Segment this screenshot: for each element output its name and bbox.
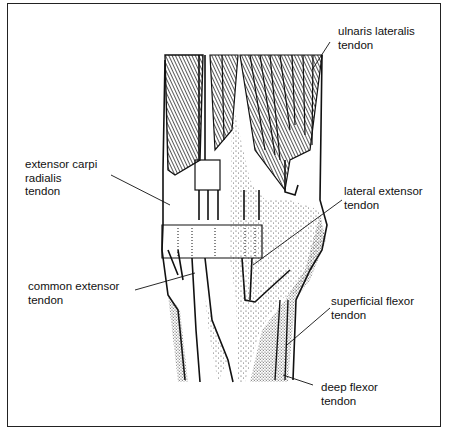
label-line: extensor carpi (25, 158, 97, 170)
label-ulnaris-lateralis-tendon: ulnaris lateralistendon (338, 25, 415, 52)
label-lateral-extensor-tendon: lateral extensortendon (344, 185, 423, 212)
label-superficial-flexor-tendon: superficial flexortendon (331, 295, 414, 322)
label-line: tendon (344, 199, 379, 211)
label-line: tendon (28, 294, 63, 306)
label-line: tendon (321, 395, 356, 407)
label-line: radialis (25, 172, 61, 184)
label-line: deep flexor (321, 381, 378, 393)
label-extensor-carpi-radialis-tendon: extensor carpiradialistendon (25, 158, 97, 199)
label-common-extensor-tendon: common extensortendon (28, 280, 119, 307)
tendon-illustration (0, 0, 449, 435)
label-line: lateral extensor (344, 185, 423, 197)
label-line: ulnaris lateralis (338, 25, 415, 37)
label-line: tendon (331, 309, 366, 321)
label-line: tendon (25, 185, 60, 197)
label-line: tendon (338, 39, 373, 51)
label-deep-flexor-tendon: deep flexortendon (321, 381, 378, 408)
label-line: superficial flexor (331, 295, 414, 307)
label-line: common extensor (28, 280, 119, 292)
